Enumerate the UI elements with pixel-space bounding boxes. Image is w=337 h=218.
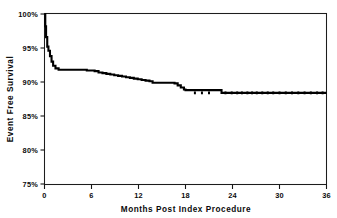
plot-border xyxy=(45,14,327,185)
y-tick-label-75: 75% xyxy=(23,180,39,189)
x-axis-title: Months Post Index Procedure xyxy=(121,205,251,214)
event-free-survival-chart: 100% 95% 90% 85% 80% 75% 0 6 12 18 24 30… xyxy=(0,0,337,218)
x-tick-label-24: 24 xyxy=(228,191,237,200)
x-tick-label-30: 30 xyxy=(275,191,284,200)
kaplan-meier-figure: 100% 95% 90% 85% 80% 75% 0 6 12 18 24 30… xyxy=(0,0,337,218)
y-tick-label-80: 80% xyxy=(23,146,39,155)
x-tick-label-36: 36 xyxy=(322,191,331,200)
survival-curve-group xyxy=(45,14,327,94)
x-tick-label-0: 0 xyxy=(42,191,46,200)
x-tick-label-6: 6 xyxy=(89,191,93,200)
x-axis: 0 6 12 18 24 30 36 xyxy=(42,185,330,201)
survival-curve-line xyxy=(45,14,327,93)
y-tick-label-95: 95% xyxy=(23,44,39,53)
y-tick-label-100: 100% xyxy=(18,10,38,19)
x-tick-label-18: 18 xyxy=(181,191,190,200)
y-tick-label-90: 90% xyxy=(23,78,39,87)
plot-frame xyxy=(45,14,327,185)
y-tick-label-85: 85% xyxy=(23,112,39,121)
y-axis: 100% 95% 90% 85% 80% 75% xyxy=(18,10,44,189)
y-axis-title: Event Free Survival xyxy=(6,56,15,142)
x-tick-label-12: 12 xyxy=(134,191,143,200)
